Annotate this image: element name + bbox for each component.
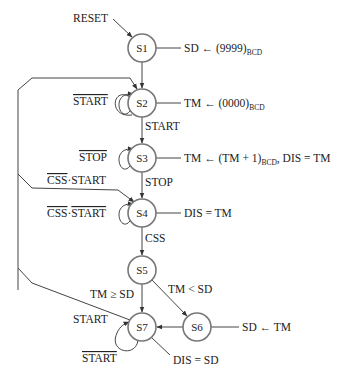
s1-action: SD ← (9999)BCD — [184, 42, 263, 57]
s7-action-line — [152, 338, 170, 355]
s7-action: DIS = SD — [173, 354, 218, 366]
label-s2-s3: START — [145, 120, 180, 132]
s6-action: SD ← TM — [242, 321, 291, 333]
label-s5-s6: TM < SD — [168, 283, 212, 295]
svg-text:S2: S2 — [136, 97, 148, 109]
s4-action: DIS = TM — [184, 207, 232, 219]
s3-action: TM ← (TM + 1)BCD, DIS = TM — [184, 152, 330, 167]
state-s3: S3 — [128, 144, 156, 172]
state-diagram: RESET S1 S2 S3 S4 S5 S6 S7 SD ← (9999)BC… — [0, 0, 340, 376]
label-s4-self: CSS·START — [47, 207, 106, 219]
label-s7-s2: START — [73, 313, 108, 325]
svg-text:S7: S7 — [136, 321, 148, 333]
label-s4-s5: CSS — [145, 232, 165, 244]
label-s5-s7: TM ≥ SD — [90, 288, 134, 300]
label-s3-s4: STOP — [145, 176, 173, 188]
svg-text:S4: S4 — [136, 207, 148, 219]
label-s4-to-s2: CSS·START — [47, 174, 106, 186]
svg-text:S5: S5 — [136, 264, 148, 276]
s2-action: TM ← (0000)BCD — [184, 97, 265, 112]
label-s3-self: STOP — [79, 151, 107, 163]
svg-text:S1: S1 — [136, 42, 148, 54]
reset-arrow — [113, 19, 132, 37]
state-s6: S6 — [183, 313, 211, 341]
label-s7-self: START — [82, 352, 117, 364]
state-s1: S1 — [128, 34, 156, 62]
reset-label: RESET — [73, 12, 108, 24]
svg-text:S3: S3 — [136, 152, 148, 164]
state-s7: S7 — [128, 313, 156, 341]
state-s2: S2 — [128, 89, 156, 117]
state-s4: S4 — [128, 199, 156, 227]
state-s5: S5 — [128, 256, 156, 284]
label-s2-self: START — [73, 95, 108, 107]
svg-text:S6: S6 — [191, 321, 203, 333]
